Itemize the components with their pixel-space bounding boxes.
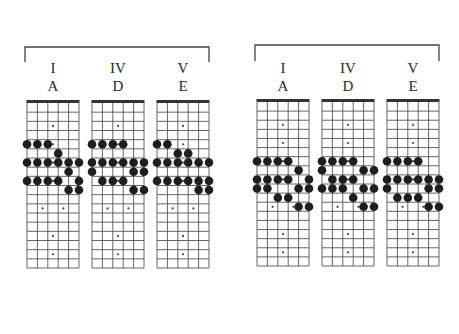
nut-bar xyxy=(322,99,375,102)
scale-note-dot xyxy=(129,167,138,176)
inlay-dot xyxy=(282,251,284,253)
nut-bar xyxy=(157,100,210,103)
scale-note-dot xyxy=(263,157,272,166)
scale-note-dot xyxy=(339,157,348,166)
chord-key-label: E xyxy=(408,78,417,94)
scale-note-dot xyxy=(64,158,73,167)
inlay-dot xyxy=(192,207,194,209)
inlay-dot xyxy=(182,235,184,237)
scale-note-dot xyxy=(119,140,128,149)
scale-note-dot xyxy=(109,140,118,149)
inlay-dot xyxy=(282,160,284,162)
scale-note-dot xyxy=(305,202,314,211)
scale-note-dot xyxy=(194,158,203,167)
scale-note-dot xyxy=(44,158,53,167)
scale-note-dot xyxy=(109,158,118,167)
scale-note-dot xyxy=(205,186,214,195)
scale-note-dot xyxy=(119,158,128,167)
scale-note-dot xyxy=(140,167,149,176)
scale-note-dot xyxy=(404,175,413,184)
chord-numeral-label: IV xyxy=(110,60,126,76)
inlay-dot xyxy=(182,161,184,163)
scale-note-dot xyxy=(153,177,162,186)
scale-note-dot xyxy=(294,202,303,211)
scale-note-dot xyxy=(98,177,107,186)
scale-note-dot xyxy=(284,157,293,166)
inlay-dot xyxy=(182,253,184,255)
scale-note-dot xyxy=(274,157,283,166)
inlay-dot xyxy=(282,124,284,126)
scale-note-dot xyxy=(88,167,97,176)
inlay-dot xyxy=(117,125,119,127)
scale-note-dot xyxy=(359,184,368,193)
inlay-dot xyxy=(282,178,284,180)
scale-note-dot xyxy=(64,167,73,176)
scale-note-dot xyxy=(54,177,63,186)
inlay-dot xyxy=(52,125,54,127)
nut-bar xyxy=(92,100,145,103)
chord-key-label: E xyxy=(178,78,187,94)
chord-numeral-label: V xyxy=(178,60,189,76)
scale-note-dot xyxy=(253,157,262,166)
scale-note-dot xyxy=(33,177,42,186)
scale-note-dot xyxy=(359,166,368,175)
nut-bar xyxy=(27,100,80,103)
scale-note-dot xyxy=(284,193,293,202)
inlay-dot xyxy=(347,251,349,253)
scale-note-dot xyxy=(349,193,358,202)
scale-note-dot xyxy=(305,184,314,193)
scale-note-dot xyxy=(383,184,392,193)
chord-numeral-label: I xyxy=(51,60,56,76)
scale-note-dot xyxy=(194,186,203,195)
inlay-dot xyxy=(62,207,64,209)
scale-note-dot xyxy=(163,177,172,186)
scale-note-dot xyxy=(318,184,327,193)
chord-key-label: A xyxy=(48,78,59,94)
scale-note-dot xyxy=(140,186,149,195)
scale-note-dot xyxy=(44,140,53,149)
inlay-dot xyxy=(412,233,414,235)
scale-note-dot xyxy=(253,175,262,184)
scale-note-dot xyxy=(383,175,392,184)
inlay-dot xyxy=(347,124,349,126)
inlay-dot xyxy=(42,207,44,209)
scale-note-dot xyxy=(75,158,84,167)
scale-note-dot xyxy=(339,175,348,184)
scale-note-dot xyxy=(263,175,272,184)
inlay-dot xyxy=(357,206,359,208)
scale-note-dot xyxy=(184,158,193,167)
scale-note-dot xyxy=(393,157,402,166)
inlay-dot xyxy=(292,206,294,208)
inlay-dot xyxy=(412,160,414,162)
scale-note-dot xyxy=(435,175,444,184)
scale-note-dot xyxy=(349,157,358,166)
inlay-dot xyxy=(182,180,184,182)
scale-note-dot xyxy=(129,158,138,167)
inlay-dot xyxy=(412,124,414,126)
scale-note-dot xyxy=(393,193,402,202)
scale-note-dot xyxy=(44,177,53,186)
scale-note-dot xyxy=(23,177,32,186)
inlay-dot xyxy=(347,233,349,235)
inlay-dot xyxy=(117,180,119,182)
scale-note-dot xyxy=(253,184,262,193)
scale-note-dot xyxy=(294,166,303,175)
scale-note-dot xyxy=(263,184,272,193)
scale-note-dot xyxy=(54,149,63,158)
scale-note-dot xyxy=(414,193,423,202)
scale-note-dot xyxy=(88,140,97,149)
scale-note-dot xyxy=(205,158,214,167)
inlay-dot xyxy=(117,253,119,255)
scale-note-dot xyxy=(305,175,314,184)
inlay-dot xyxy=(127,207,129,209)
scale-note-dot xyxy=(140,158,149,167)
scale-note-dot xyxy=(424,202,433,211)
inlay-dot xyxy=(412,142,414,144)
scale-note-dot xyxy=(404,193,413,202)
inlay-dot xyxy=(412,251,414,253)
scale-note-dot xyxy=(23,158,32,167)
inlay-dot xyxy=(347,160,349,162)
inlay-dot xyxy=(52,161,54,163)
inlay-dot xyxy=(347,178,349,180)
scale-note-dot xyxy=(64,186,73,195)
